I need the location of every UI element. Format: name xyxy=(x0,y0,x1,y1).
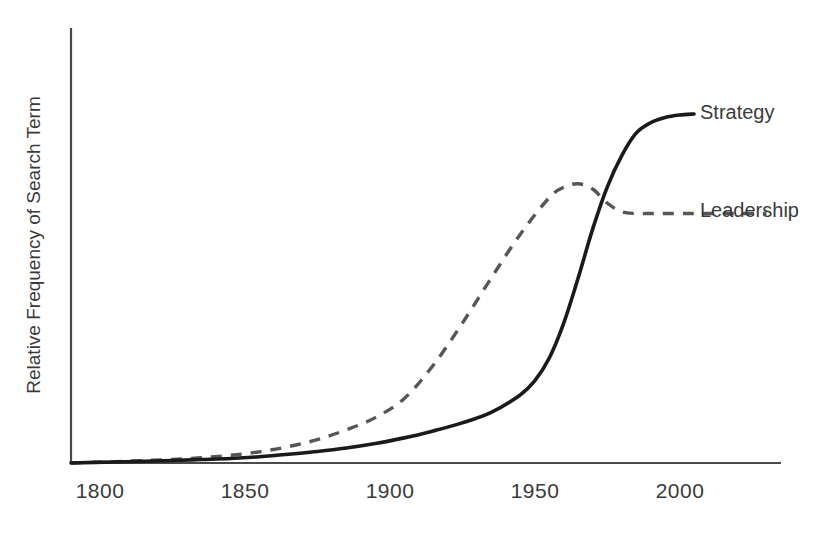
series-line-leadership xyxy=(71,184,767,463)
y-axis-title: Relative Frequency of Search Term xyxy=(23,96,44,393)
x-tick-label-1800: 1800 xyxy=(76,479,125,502)
x-tick-label-2000: 2000 xyxy=(656,479,705,502)
x-tick-label-1850: 1850 xyxy=(221,479,270,502)
x-tick-label-1900: 1900 xyxy=(366,479,415,502)
series-line-strategy xyxy=(71,114,694,463)
series-label-leadership: Leadership xyxy=(700,199,799,221)
chart-container: 1800 1850 1900 1950 2000 Relative Freque… xyxy=(0,0,835,541)
series-label-strategy: Strategy xyxy=(700,101,774,123)
x-tick-label-1950: 1950 xyxy=(511,479,560,502)
line-chart: 1800 1850 1900 1950 2000 Relative Freque… xyxy=(0,0,835,541)
